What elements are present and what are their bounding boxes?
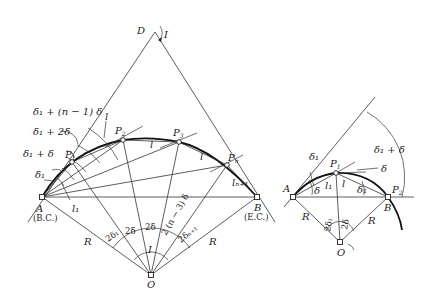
chord-APn: [42, 165, 227, 197]
point-B: [255, 195, 260, 200]
left-diagram: D I A (B.C.) B (E.C.) O P1 P2 P3 Pn δ₁ +…: [23, 25, 275, 290]
point-O-right: [338, 240, 343, 245]
chord-P1P2: [72, 140, 123, 162]
label-2delta-b: 2δ: [145, 222, 156, 232]
point-P1-right: [334, 171, 339, 176]
point-A: [40, 195, 45, 200]
label-l-p3pn: l: [200, 151, 203, 162]
label-delta-right: δ: [381, 163, 387, 174]
label-A-right: A: [282, 183, 290, 194]
point-P2: [121, 138, 126, 143]
label-ln1: lₙ₊₁: [232, 177, 249, 188]
label-P1: P1: [64, 149, 76, 161]
label-2delta-a: 2δ: [125, 226, 136, 236]
label-R-left-right: R: [301, 211, 310, 222]
label-2delta-right: 2δ: [339, 218, 351, 230]
point-P3: [177, 140, 182, 145]
leader-l: [104, 121, 106, 138]
label-delta1-plus-delta-right: δ₁ + δ: [374, 144, 405, 155]
label-Pn: Pn: [227, 152, 239, 164]
label-P3: P3: [172, 127, 184, 139]
point-B-right: [386, 195, 391, 200]
label-delta1-plus-n1-delta: δ₁ + (n − 1) δ: [33, 106, 102, 117]
label-2delta-n1: 2δₙ₊₁: [176, 223, 199, 245]
label-O: O: [147, 279, 155, 290]
point-Pn: [225, 163, 230, 168]
label-R-right-right: R: [367, 215, 376, 226]
label-l1-right: l₁: [325, 180, 332, 191]
point-O: [149, 273, 154, 278]
leader-delta-right: [357, 168, 378, 170]
label-BC: (B.C.): [33, 213, 57, 223]
label-delta1: δ₁: [35, 169, 45, 180]
label-l-top: l: [105, 111, 108, 122]
label-l1: l₁: [72, 203, 79, 214]
label-delta1-plus-delta: δ₁ + δ: [23, 148, 54, 159]
label-P1-right: P1: [329, 158, 341, 170]
point-A-right: [291, 195, 296, 200]
label-D: D: [136, 25, 145, 36]
label-delta1-top-right: δ₁: [309, 151, 319, 162]
label-I-top: I: [163, 29, 169, 40]
label-delta-left-right: δ: [314, 185, 320, 196]
radius-OP1-right: [336, 173, 340, 242]
label-2delta1-right: 2δ₁: [322, 217, 334, 232]
label-R-left: R: [83, 236, 92, 247]
label-B-right: B: [383, 202, 391, 213]
label-I-center: I: [147, 244, 153, 255]
label-P2-right: P2: [391, 184, 403, 196]
angle-arc-O-right-ext: [348, 244, 354, 250]
label-P2: P2: [114, 125, 126, 137]
label-2delta1: 2δ₁: [103, 227, 120, 243]
label-delta1-plus-2delta: δ₁ + 2δ: [33, 126, 70, 137]
label-EC: (E.C.): [244, 212, 268, 222]
radius-OA: [42, 197, 151, 275]
label-l-p2p3: l: [150, 139, 153, 150]
label-R-right: R: [208, 236, 217, 247]
label-O-right: O: [337, 247, 345, 258]
label-delta1-right: δ₁: [357, 184, 367, 195]
label-l-right: l: [342, 178, 345, 189]
right-diagram: A B O P1 P2 δ₁ δ₁ + δ δ δ δ₁ l₁ l R R 2δ…: [282, 97, 414, 258]
curve-setting-diagram: D I A (B.C.) B (E.C.) O P1 P2 P3 Pn δ₁ +…: [0, 0, 439, 308]
